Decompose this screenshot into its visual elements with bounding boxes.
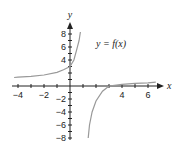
y-axis-arrow-icon xyxy=(67,22,73,29)
y-tick-label-neg6: −6 xyxy=(56,120,66,130)
y-tick-label-neg2: −2 xyxy=(56,94,66,104)
x-tick-label-6: 6 xyxy=(145,90,150,100)
y-axis-label: y xyxy=(67,9,73,20)
x-axis-label: x xyxy=(166,80,172,91)
x-axis-arrow-icon xyxy=(157,83,164,89)
x-tick-label-neg4: −4 xyxy=(13,90,23,100)
y-tick-label-4: 4 xyxy=(61,55,66,65)
x-tick-label-neg2: −2 xyxy=(39,90,49,100)
y-tick-label-6: 6 xyxy=(61,42,66,52)
y-tick-label-neg4: −4 xyxy=(56,107,66,117)
function-label: y = f(x) xyxy=(95,38,127,50)
y-tick-label-8: 8 xyxy=(61,29,66,39)
function-graph: −4 −2 4 6 8 6 4 −2 −4 −6 −8 y x y = f(x) xyxy=(0,0,175,143)
x-tick-label-4: 4 xyxy=(119,90,124,100)
y-tick-label-neg8: −8 xyxy=(56,133,66,143)
